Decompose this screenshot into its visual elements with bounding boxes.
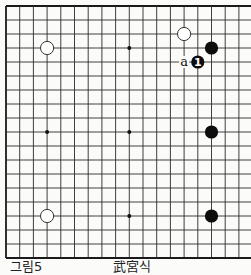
star-point-icon (127, 214, 131, 218)
star-point-icon (127, 130, 131, 134)
white-stone-icon (41, 209, 54, 222)
star-point-icon (45, 130, 49, 134)
star-point-icon (127, 46, 131, 50)
stone-move-number: 1 (194, 56, 202, 69)
white-stone-icon (41, 41, 54, 54)
point-marker-label: a (180, 54, 188, 69)
black-stone-icon (205, 41, 218, 54)
figure-title: 武宮식 (113, 259, 151, 275)
black-stone-icon (205, 209, 218, 222)
figure-label: 그림5 (10, 259, 42, 275)
markers: a (179, 54, 189, 69)
white-stone-icon (178, 27, 191, 40)
go-board: 1 a (0, 0, 251, 262)
black-stone-icon (205, 125, 218, 138)
